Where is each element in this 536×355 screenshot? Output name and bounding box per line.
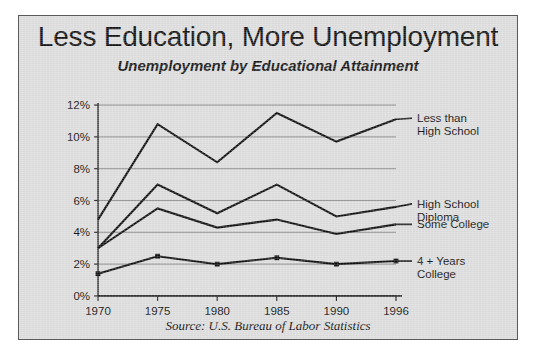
x-axis-tick-labels: 197019751980198519901996 bbox=[85, 305, 409, 317]
line-chart-svg: 0%2%4%6%8%10%12% 19701975198019851990199… bbox=[19, 16, 518, 340]
x-tick-label: 1975 bbox=[145, 305, 171, 317]
y-tick-label: 12% bbox=[67, 99, 90, 111]
y-tick-label: 4% bbox=[73, 226, 90, 238]
series-label: High School bbox=[417, 198, 479, 210]
x-tick-label: 1970 bbox=[85, 305, 111, 317]
source-note: Source: U.S. Bureau of Labor Statistics bbox=[19, 318, 517, 333]
series-line bbox=[98, 113, 396, 220]
series-label: Some College bbox=[417, 218, 489, 230]
y-tick-label: 6% bbox=[73, 195, 90, 207]
series-line bbox=[98, 185, 396, 249]
series-label: Less than bbox=[417, 112, 467, 124]
x-tick-label: 1996 bbox=[383, 305, 409, 317]
x-tick-label: 1980 bbox=[204, 305, 230, 317]
y-axis-tick-labels: 0%2%4%6%8%10%12% bbox=[67, 99, 90, 302]
plot-area: 0%2%4%6%8%10%12% 19701975198019851990199… bbox=[19, 16, 518, 340]
series-lines bbox=[96, 113, 399, 276]
series-label-leader bbox=[396, 118, 412, 119]
series-label: 4 + Years bbox=[417, 255, 466, 267]
series-label-leader bbox=[396, 204, 412, 207]
data-point-marker bbox=[334, 262, 339, 267]
y-tick-label: 8% bbox=[73, 163, 90, 175]
series-label: High School bbox=[417, 125, 479, 137]
series-line bbox=[98, 256, 396, 274]
x-tick-label: 1985 bbox=[264, 305, 290, 317]
data-point-marker bbox=[274, 255, 279, 260]
data-point-marker bbox=[155, 254, 160, 259]
series-label: College bbox=[417, 268, 456, 280]
chart-figure: Less Education, More Unemployment Unempl… bbox=[18, 15, 518, 340]
y-tick-label: 0% bbox=[73, 290, 90, 302]
data-point-marker bbox=[215, 262, 220, 267]
series-labels: Less thanHigh SchoolHigh SchoolDiplomaSo… bbox=[396, 112, 489, 280]
y-tick-label: 2% bbox=[73, 258, 90, 270]
data-point-marker bbox=[96, 271, 101, 276]
x-tick-label: 1990 bbox=[324, 305, 350, 317]
y-tick-label: 10% bbox=[67, 131, 90, 143]
